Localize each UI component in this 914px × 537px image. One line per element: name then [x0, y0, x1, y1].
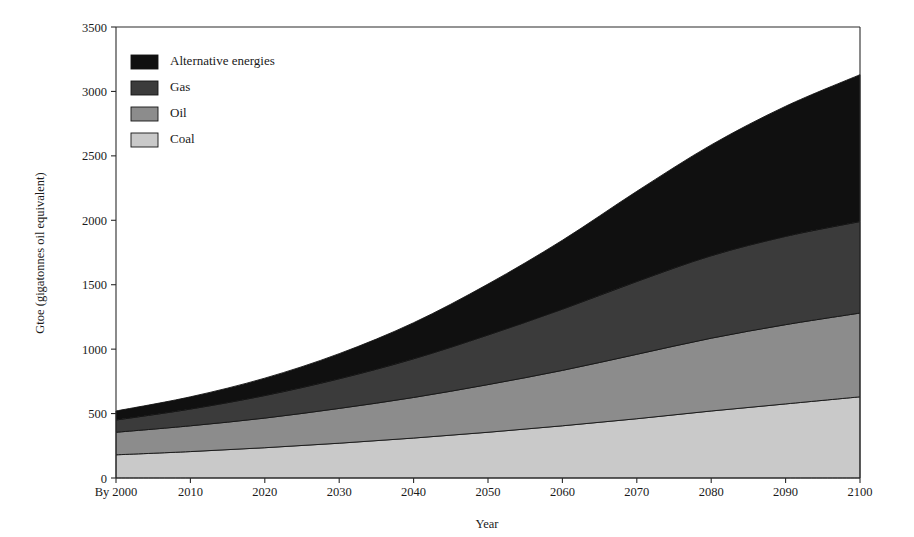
- x-tick-label: 2060: [550, 485, 575, 499]
- legend-swatch: [131, 107, 158, 121]
- y-tick-label: 0: [101, 472, 107, 486]
- y-tick-label: 2000: [82, 214, 107, 228]
- x-tick-label: 2100: [848, 485, 873, 499]
- x-tick-label: 2070: [624, 485, 649, 499]
- y-tick-label: 1500: [82, 278, 107, 292]
- y-tick-label: 3500: [82, 21, 107, 35]
- y-axis-tick-labels: 0500100015002000250030003500: [82, 21, 107, 486]
- x-tick-label: 2040: [401, 485, 426, 499]
- y-tick-label: 1000: [82, 343, 107, 357]
- x-tick-label: By 2000: [95, 485, 138, 499]
- x-tick-label: 2090: [773, 485, 798, 499]
- y-tick-label: 2500: [82, 149, 107, 163]
- legend-label: Coal: [170, 131, 195, 146]
- x-tick-label: 2010: [178, 485, 203, 499]
- chart-legend: Alternative energiesGasOilCoal: [131, 53, 275, 147]
- legend-label: Alternative energies: [170, 53, 275, 68]
- legend-label: Gas: [170, 79, 190, 94]
- legend-swatch: [131, 55, 158, 69]
- chart-container: 0500100015002000250030003500 By 20002010…: [0, 0, 914, 537]
- x-axis-ticks: [116, 478, 860, 483]
- x-tick-label: 2050: [476, 485, 501, 499]
- x-tick-label: 2020: [252, 485, 277, 499]
- legend-swatch: [131, 133, 158, 147]
- y-axis-ticks: [111, 27, 116, 478]
- x-tick-label: 2030: [327, 485, 352, 499]
- legend-label: Oil: [170, 105, 187, 120]
- y-tick-label: 500: [88, 407, 107, 421]
- y-axis-title: Gtoe (gigatonnes oil equivalent): [33, 172, 47, 333]
- x-axis-tick-labels: By 2000201020202030204020502060207020802…: [95, 485, 873, 499]
- stacked-area-chart: 0500100015002000250030003500 By 20002010…: [0, 0, 914, 537]
- legend-swatch: [131, 81, 158, 95]
- y-tick-label: 3000: [82, 85, 107, 99]
- x-tick-label: 2080: [699, 485, 724, 499]
- x-axis-title: Year: [475, 517, 499, 531]
- chart-areas: [116, 75, 860, 478]
